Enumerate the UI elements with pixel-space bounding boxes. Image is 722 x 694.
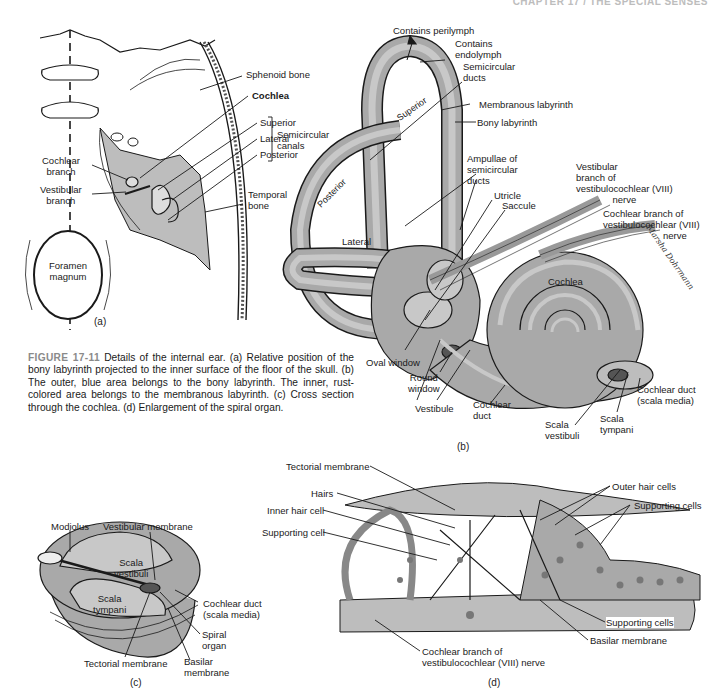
label-semicircular-ducts: Semicircular ducts bbox=[463, 61, 515, 83]
panel-a-tag: (a) bbox=[94, 316, 106, 327]
label-inner-hair-cell: Inner hair cell bbox=[267, 505, 324, 516]
label-scala-vestibuli-b: Scala vestibuli bbox=[545, 419, 579, 441]
label-cochlea-a: Cochlea bbox=[252, 90, 289, 101]
panel-b-tag: (b) bbox=[457, 441, 469, 452]
label-sphenoid-bone: Sphenoid bone bbox=[246, 69, 310, 80]
label-cochlear-branch-a: Cochlear branch bbox=[42, 155, 80, 177]
label-contains-endolymph: Contains endolymph bbox=[455, 38, 501, 60]
label-cochlear-branch-d: Cochlear branch of vestibulocochlear (VI… bbox=[422, 646, 545, 668]
label-membranous-labyrinth: Membranous labyrinth bbox=[479, 99, 573, 110]
label-basilar-membrane-d: Basilar membrane bbox=[590, 635, 667, 646]
panel-c-drawing bbox=[38, 522, 200, 657]
figure-number: FIGURE 17-11 bbox=[28, 352, 100, 363]
label-vestibule: Vestibule bbox=[415, 403, 454, 414]
label-basilar-membrane-c: Basilar membrane bbox=[184, 656, 229, 678]
label-superior-canal: Superior bbox=[260, 117, 296, 128]
label-outer-hair-cells: Outer hair cells bbox=[612, 481, 676, 492]
label-supporting-cells-top: Supporting cells bbox=[634, 500, 702, 511]
label-contains-perilymph: Contains perilymph bbox=[393, 25, 474, 36]
label-hairs: Hairs bbox=[311, 488, 333, 499]
label-vestibular-membrane: Vestibular membrane bbox=[103, 521, 193, 532]
figure-caption: FIGURE 17-11 Details of the internal ear… bbox=[28, 352, 354, 414]
label-semicircular-canals: Semicircular canals bbox=[277, 129, 329, 151]
label-modiolus: Modiolus bbox=[51, 521, 89, 532]
label-scala-tympani-c: Scala tympani bbox=[93, 593, 126, 615]
label-oval-window: Oval window bbox=[366, 357, 420, 368]
label-cochlear-duct-c: Cochlear duct (scala media) bbox=[203, 598, 262, 620]
label-cochlear-duct-b: Cochlear duct bbox=[473, 399, 511, 421]
panel-c-tag: (c) bbox=[130, 677, 142, 688]
label-vestibular-branch-b: Vestibular branch of vestibulocochlear (… bbox=[576, 161, 673, 205]
label-spiral-organ: Spiral organ bbox=[202, 629, 226, 651]
label-ampullae: Ampullae of semicircular ducts bbox=[467, 153, 518, 186]
label-scala-tympani-b: Scala tympani bbox=[600, 413, 633, 435]
label-tectorial-membrane-c: Tectorial membrane bbox=[84, 658, 167, 669]
label-cochlear-duct-media-b: Cochlear duct (scala media) bbox=[637, 384, 696, 406]
label-lateral-b: Lateral bbox=[342, 236, 371, 247]
label-supporting-cells-bottom: Supporting cells bbox=[606, 617, 674, 628]
label-saccule: Saccule bbox=[502, 200, 536, 211]
figure-artwork bbox=[0, 0, 722, 694]
label-temporal-bone: Temporal bone bbox=[248, 189, 287, 211]
label-bony-labyrinth: Bony labyrinth bbox=[477, 117, 537, 128]
label-foramen-magnum: Foramen magnum bbox=[49, 260, 87, 282]
label-tectorial-membrane-d: Tectorial membrane bbox=[286, 461, 369, 472]
panel-d-tag: (d) bbox=[488, 677, 500, 688]
label-scala-vestibuli-c: Scala vestibuli bbox=[114, 557, 148, 579]
label-cochlea-b: Cochlea bbox=[548, 276, 583, 287]
label-supporting-cell: Supporting cell bbox=[262, 527, 325, 538]
label-round-window: Round window bbox=[408, 372, 440, 394]
label-vestibular-branch-a: Vestibular branch bbox=[40, 184, 82, 206]
panel-a-drawing bbox=[25, 30, 247, 330]
